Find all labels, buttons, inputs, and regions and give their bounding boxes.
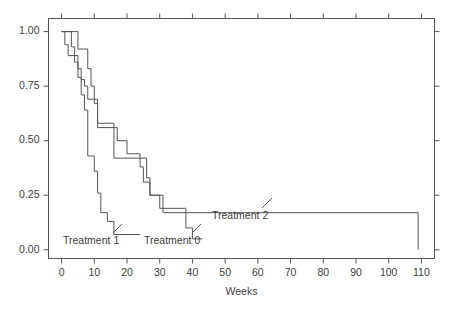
x-tick-label: 50 xyxy=(219,266,231,278)
y-axis-ticks-right xyxy=(435,32,440,250)
y-tick-label: 0.50 xyxy=(19,133,40,145)
x-axis-title: Weeks xyxy=(226,285,258,297)
x-tick-label: 90 xyxy=(350,266,362,278)
y-tick-label: 0.25 xyxy=(19,188,40,200)
x-tick-label: 80 xyxy=(317,266,329,278)
x-tick-label: 30 xyxy=(154,266,166,278)
x-tick-label: 10 xyxy=(88,266,100,278)
y-tick-label: 1.00 xyxy=(19,24,40,36)
y-tick-label: 0.00 xyxy=(19,243,40,255)
x-tick-label: 20 xyxy=(121,266,133,278)
series-label-treatment-1: Treatment 1 xyxy=(63,234,119,246)
leader-line-treatment-0 xyxy=(192,224,201,233)
x-axis-ticks-top xyxy=(62,14,422,19)
plot-box-border xyxy=(49,19,435,259)
y-axis-tick-labels: 0.000.250.500.751.00 xyxy=(19,24,40,254)
y-tick-label: 0.75 xyxy=(19,79,40,91)
survival-curve-treatment-0 xyxy=(62,32,203,239)
kaplan-meier-plot: 0102030405060708090100110 0.000.250.500.… xyxy=(0,0,449,310)
x-tick-label: 100 xyxy=(380,266,398,278)
survival-curve-treatment-1 xyxy=(62,32,141,235)
x-tick-label: 110 xyxy=(413,266,430,278)
x-axis-tick-labels: 0102030405060708090100110 xyxy=(59,266,430,278)
plot-frame xyxy=(49,19,435,259)
x-tick-label: 70 xyxy=(285,266,297,278)
leader-line-treatment-2 xyxy=(262,198,272,208)
x-axis-ticks-bottom xyxy=(62,259,422,264)
x-tick-label: 40 xyxy=(187,266,199,278)
x-tick-label: 0 xyxy=(59,266,65,278)
survival-chart-container: 0102030405060708090100110 0.000.250.500.… xyxy=(0,0,449,310)
y-axis-ticks-left xyxy=(44,32,49,250)
x-tick-label: 60 xyxy=(252,266,264,278)
series-annotations-group: Treatment 1Treatment 0Treatment 2 xyxy=(63,198,272,246)
series-label-treatment-2: Treatment 2 xyxy=(212,209,268,221)
series-label-treatment-0: Treatment 0 xyxy=(144,234,200,246)
